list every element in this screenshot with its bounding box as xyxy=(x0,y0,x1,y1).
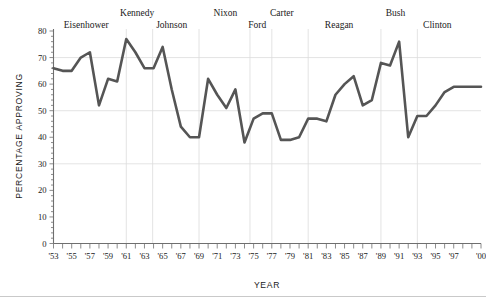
x-tick-label: '83 xyxy=(321,251,331,261)
x-tick-label: '69 xyxy=(194,251,204,261)
y-tick-label: 10 xyxy=(38,212,47,222)
president-label-bush: Bush xyxy=(386,8,406,18)
x-tick-label: '75 xyxy=(249,251,259,261)
x-tick-label: '59 xyxy=(103,251,113,261)
president-label-kennedy: Kennedy xyxy=(120,8,155,18)
x-tick-label: '97 xyxy=(449,251,460,261)
x-tick-label: '00 xyxy=(476,251,486,261)
x-tick-label: '85 xyxy=(339,251,349,261)
y-tick-label: 0 xyxy=(42,239,46,249)
x-tick-label: '73 xyxy=(230,251,240,261)
x-tick-label: '95 xyxy=(430,251,440,261)
x-tick-label: '93 xyxy=(412,251,422,261)
x-tick-label: '87 xyxy=(358,251,369,261)
x-tick-label: '63 xyxy=(139,251,149,261)
y-tick-label: 80 xyxy=(38,26,47,36)
approval-rating-chart: 01020304050607080 '53'55'57'59'61'63'65'… xyxy=(0,0,486,298)
president-label-johnson: Johnson xyxy=(156,20,187,30)
president-label-ford: Ford xyxy=(248,20,266,30)
president-label-clinton: Clinton xyxy=(423,20,452,30)
y-tick-label: 70 xyxy=(38,53,47,63)
x-tick-label: '55 xyxy=(67,251,77,261)
x-tick-label: '91 xyxy=(394,251,404,261)
x-tick-label: '77 xyxy=(267,251,278,261)
y-tick-label: 30 xyxy=(38,159,47,169)
president-label-eisenhower: Eisenhower xyxy=(64,20,110,30)
y-axis-tick-labels: 01020304050607080 xyxy=(38,26,47,249)
x-tick-label: '57 xyxy=(85,251,96,261)
x-tick-label: '53 xyxy=(48,251,58,261)
president-label-carter: Carter xyxy=(270,8,295,18)
x-tick-label: '61 xyxy=(121,251,131,261)
y-tick-label: 50 xyxy=(38,106,47,116)
x-tick-label: '67 xyxy=(176,251,187,261)
x-tick-label: '79 xyxy=(285,251,295,261)
y-tick-label: 60 xyxy=(38,79,47,89)
y-axis-title: PERCENTAGE APPROVING xyxy=(14,73,24,199)
x-axis-title: YEAR xyxy=(254,280,280,290)
president-label-nixon: Nixon xyxy=(214,8,238,18)
y-tick-label: 40 xyxy=(38,132,47,142)
y-tick-label: 20 xyxy=(38,185,47,195)
x-tick-label: '71 xyxy=(212,251,222,261)
president-label-reagan: Reagan xyxy=(325,20,354,30)
x-tick-label: '65 xyxy=(158,251,168,261)
x-tick-label: '81 xyxy=(303,251,313,261)
x-tick-label: '89 xyxy=(376,251,386,261)
